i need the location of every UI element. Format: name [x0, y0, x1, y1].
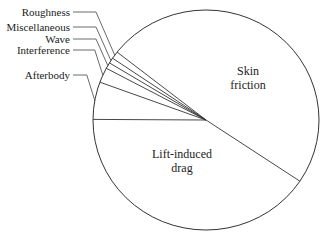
- leader-line-wave: [73, 39, 108, 66]
- slice-label-skin-friction: Skin: [237, 64, 259, 78]
- slice-label-lift-induced-drag: Lift-induced: [152, 147, 212, 161]
- leader-line-miscellaneous: [73, 27, 111, 61]
- slice-label-roughness: Roughness: [22, 6, 70, 18]
- slice-label-miscellaneous: Miscellaneous: [6, 21, 70, 33]
- slice-label-afterbody: Afterbody: [25, 69, 71, 81]
- leader-line-afterbody: [73, 75, 95, 101]
- slice-boundary-lift-induced-drag: [93, 119, 206, 120]
- leader-line-roughness: [73, 12, 115, 55]
- leader-line-interference: [73, 50, 103, 75]
- slice-label-skin-friction: friction: [230, 78, 265, 92]
- slice-label-interference: Interference: [17, 44, 70, 56]
- slice-label-lift-induced-drag: drag: [171, 161, 192, 175]
- pie-chart: SkinfrictionRoughnessMiscellaneousWaveIn…: [0, 0, 327, 235]
